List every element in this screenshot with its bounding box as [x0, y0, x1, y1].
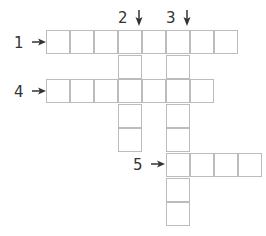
grid-cell[interactable] [70, 79, 94, 103]
clue-label-1-across: 1 [14, 35, 46, 51]
grid-cell[interactable] [142, 30, 166, 54]
grid-cell[interactable] [70, 30, 94, 54]
clue-label-5-across: 5 [133, 157, 165, 173]
grid-cell[interactable] [166, 79, 190, 103]
clue-number: 1 [14, 35, 24, 51]
grid-cell[interactable] [190, 79, 214, 103]
grid-cell[interactable] [166, 128, 190, 152]
grid-cell[interactable] [46, 30, 70, 54]
grid-cell[interactable] [142, 79, 166, 103]
grid-cell[interactable] [166, 55, 190, 79]
clue-label-3-down: 3 [166, 10, 191, 26]
grid-cell[interactable] [118, 79, 142, 103]
grid-cell[interactable] [166, 178, 190, 202]
clue-label-4-across: 4 [14, 84, 46, 100]
clue-number: 4 [14, 84, 24, 100]
clue-number: 2 [118, 10, 128, 26]
arrow-right-icon [151, 160, 165, 168]
grid-cell[interactable] [94, 30, 118, 54]
grid-cell[interactable] [118, 30, 142, 54]
clue-label-2-down: 2 [118, 10, 143, 26]
grid-cell[interactable] [166, 30, 190, 54]
grid-cell[interactable] [118, 104, 142, 128]
grid-cell[interactable] [214, 153, 238, 177]
grid-cell[interactable] [238, 153, 262, 177]
arrow-down-icon [183, 10, 191, 26]
grid-cell[interactable] [166, 104, 190, 128]
grid-cell[interactable] [118, 55, 142, 79]
grid-cell[interactable] [166, 153, 190, 177]
grid-cell[interactable] [46, 79, 70, 103]
arrow-down-icon [135, 10, 143, 26]
grid-cell[interactable] [166, 202, 190, 226]
grid-cell[interactable] [214, 30, 238, 54]
arrow-right-icon [32, 87, 46, 95]
grid-cell[interactable] [190, 30, 214, 54]
grid-cell[interactable] [118, 128, 142, 152]
clue-number: 5 [133, 157, 143, 173]
grid-cell[interactable] [190, 153, 214, 177]
clue-number: 3 [166, 10, 176, 26]
arrow-right-icon [32, 38, 46, 46]
crossword-puzzle: 1 4 5 2 3 [0, 0, 266, 236]
grid-cell[interactable] [94, 79, 118, 103]
